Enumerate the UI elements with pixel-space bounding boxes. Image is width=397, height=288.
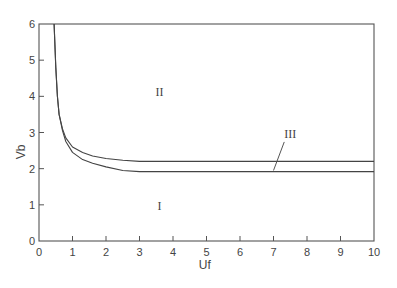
x-tick-label: 1 bbox=[69, 246, 75, 258]
x-axis-label: Uf bbox=[199, 258, 212, 272]
x-tick-label: 5 bbox=[203, 246, 209, 258]
y-tick-label: 2 bbox=[29, 163, 35, 175]
region-label-ii: II bbox=[156, 85, 164, 99]
boundary-curves bbox=[54, 24, 374, 172]
x-tick-label: 6 bbox=[237, 246, 243, 258]
x-tick-label: 3 bbox=[136, 246, 142, 258]
plot-frame bbox=[39, 24, 374, 241]
y-tick-label: 3 bbox=[29, 127, 35, 139]
y-tick-label: 6 bbox=[29, 18, 35, 30]
x-tick-label: 4 bbox=[170, 246, 176, 258]
y-tick-label: 5 bbox=[29, 54, 35, 66]
x-tick-label: 8 bbox=[304, 246, 310, 258]
chart: 012345678910 0123456 IIIIII Uf Vb bbox=[0, 0, 397, 288]
region-labels: IIIIII bbox=[156, 85, 297, 213]
region-leader-line bbox=[274, 142, 285, 171]
upper-boundary-curve bbox=[54, 24, 374, 161]
x-tick-label: 10 bbox=[368, 246, 380, 258]
y-axis-label: Vb bbox=[14, 144, 28, 159]
x-tick-label: 2 bbox=[103, 246, 109, 258]
region-label-iii: III bbox=[284, 127, 296, 141]
y-tick-label: 0 bbox=[29, 235, 35, 247]
y-tick-label: 1 bbox=[29, 199, 35, 211]
plot-border bbox=[39, 24, 374, 241]
region-label-i: I bbox=[158, 199, 162, 213]
x-tick-label: 0 bbox=[36, 246, 42, 258]
lower-boundary-curve bbox=[54, 24, 374, 172]
y-tick-label: 4 bbox=[29, 90, 35, 102]
y-axis-ticks: 0123456 bbox=[29, 18, 44, 247]
x-axis-ticks: 012345678910 bbox=[36, 236, 380, 258]
x-tick-label: 9 bbox=[337, 246, 343, 258]
x-tick-label: 7 bbox=[270, 246, 276, 258]
